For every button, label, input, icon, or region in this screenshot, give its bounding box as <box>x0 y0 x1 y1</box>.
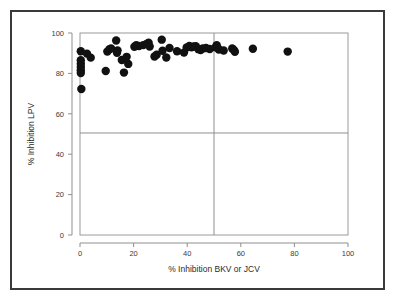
y-tick-label: 100 <box>51 29 64 38</box>
data-point <box>102 67 110 75</box>
data-point <box>120 68 128 76</box>
data-point <box>284 47 292 55</box>
data-point <box>162 53 170 61</box>
data-point <box>124 60 132 68</box>
y-axis-tick-labels: 020406080100 <box>51 29 64 240</box>
data-point <box>173 47 181 55</box>
data-point <box>158 35 166 43</box>
x-tick-label: 100 <box>342 249 355 258</box>
y-tick-label: 40 <box>56 150 64 159</box>
x-axis-tick-labels: 020406080100 <box>78 249 354 258</box>
x-tick-label: 0 <box>78 249 82 258</box>
data-point <box>77 69 85 77</box>
data-point <box>112 36 120 44</box>
data-point <box>231 48 239 56</box>
y-axis-ticks <box>68 33 72 235</box>
data-point <box>87 53 95 61</box>
data-point <box>122 53 130 61</box>
data-point <box>145 42 153 50</box>
y-axis-label: % Inhibition LPV <box>26 102 36 165</box>
data-point <box>165 44 173 52</box>
data-point <box>249 45 257 53</box>
data-point-group <box>77 35 292 93</box>
figure-root: 020406080100 020406080100 % Inhibition B… <box>0 0 397 305</box>
scatter-plot: 020406080100 020406080100 % Inhibition B… <box>0 0 397 305</box>
scatter-plot-svg: 020406080100 020406080100 % Inhibition B… <box>0 0 397 305</box>
y-tick-label: 80 <box>56 69 64 78</box>
data-point <box>77 85 85 93</box>
x-tick-label: 20 <box>129 249 137 258</box>
x-axis-ticks <box>80 243 348 247</box>
data-point <box>113 46 121 54</box>
x-tick-label: 60 <box>237 249 245 258</box>
x-axis-label: % Inhibition BKV or JCV <box>168 264 260 274</box>
y-tick-label: 60 <box>56 110 64 119</box>
data-point <box>219 46 227 54</box>
x-tick-label: 80 <box>290 249 298 258</box>
y-tick-label: 20 <box>56 190 64 199</box>
y-tick-label: 0 <box>60 231 64 240</box>
x-tick-label: 40 <box>183 249 191 258</box>
